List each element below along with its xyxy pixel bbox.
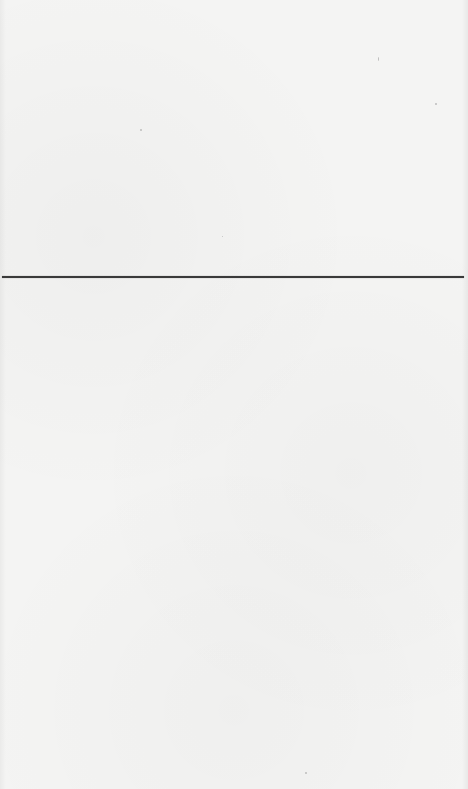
paper-speck — [222, 236, 223, 237]
blank-document-page — [0, 0, 468, 789]
paper-speck — [305, 772, 307, 774]
horizontal-separator-line — [2, 276, 464, 278]
paper-speck — [140, 129, 142, 131]
paper-speck — [435, 103, 437, 105]
paper-speck — [378, 57, 379, 61]
